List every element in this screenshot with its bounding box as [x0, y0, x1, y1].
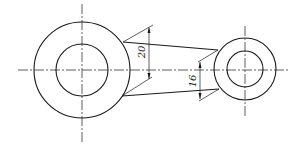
- dim-16-arrow-top: [199, 62, 202, 68]
- technical-drawing: 20 16: [0, 0, 300, 150]
- dimension-label-20: 20: [137, 46, 147, 59]
- dim-20-extension-upper: [123, 25, 153, 42]
- centerlines: [18, 4, 290, 143]
- dim-16-extension-lower: [199, 89, 219, 101]
- lower-web-edge: [122, 89, 219, 96]
- dim-16-arrow-bottom: [199, 93, 202, 99]
- dimension-label-16: 16: [188, 75, 198, 88]
- drawing-svg: [0, 0, 300, 150]
- dimension-20: [122, 25, 153, 96]
